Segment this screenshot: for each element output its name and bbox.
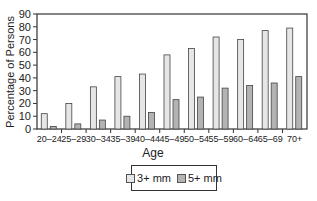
y-axis-label: Percentage of Persons [4,16,16,128]
y-tick-label: 30 [19,85,31,97]
y-tick-label: 50 [19,59,31,71]
bar-5mm [50,126,56,129]
bar-5mm [271,83,277,129]
x-tick-label: 25–29 [61,134,86,144]
bar-3mm [189,49,195,130]
y-tick-label: 90 [19,8,31,20]
y-tick-label: 80 [19,21,31,33]
x-tick-label: 60–64 [233,134,258,144]
bar-3mm [262,31,268,129]
legend-label-5mm: 5+ mm [188,172,222,184]
bar-5mm [148,112,154,129]
bar-5mm [173,100,179,129]
bar-5mm [75,124,81,129]
bar-5mm [247,86,253,129]
y-tick-label: 60 [19,46,31,58]
bar-3mm [238,40,244,129]
x-tick-label: 45–49 [159,134,184,144]
bar-5mm [222,88,228,129]
bar-3mm [90,87,96,129]
bar-3mm [139,74,145,129]
bar-3mm [115,77,121,129]
x-tick-label: 70+ [287,134,302,144]
bar-3mm [164,55,170,129]
bar-5mm [296,77,302,129]
legend-swatch-5mm [177,174,186,183]
bar-5mm [124,116,130,129]
bar-5mm [99,120,105,129]
bar-3mm [287,28,293,129]
y-tick-label: 40 [19,72,31,84]
bar-3mm [41,114,47,129]
legend: 3+ mm 5+ mm [131,165,217,191]
x-tick-label: 30–34 [86,134,111,144]
plot-area: 010203040506070809020–2425–2930–3435–394… [19,8,307,144]
legend-swatch-3mm [126,174,135,183]
x-tick-label: 55–59 [209,134,234,144]
x-tick-label: 20–24 [37,134,62,144]
bar-5mm [198,97,204,129]
legend-item-5mm: 5+ mm [177,172,222,184]
y-tick-label: 10 [19,110,31,122]
x-axis-label: Age [142,146,164,160]
y-tick-label: 0 [25,123,31,135]
bar-3mm [66,103,72,129]
legend-item-3mm: 3+ mm [126,172,171,184]
y-tick-label: 70 [19,34,31,46]
x-tick-label: 50–54 [184,134,209,144]
bar-3mm [213,37,219,129]
x-tick-label: 35–39 [110,134,135,144]
x-tick-label: 40–44 [135,134,160,144]
legend-label-3mm: 3+ mm [137,172,171,184]
y-tick-label: 20 [19,97,31,109]
x-tick-label: 65–69 [258,134,283,144]
